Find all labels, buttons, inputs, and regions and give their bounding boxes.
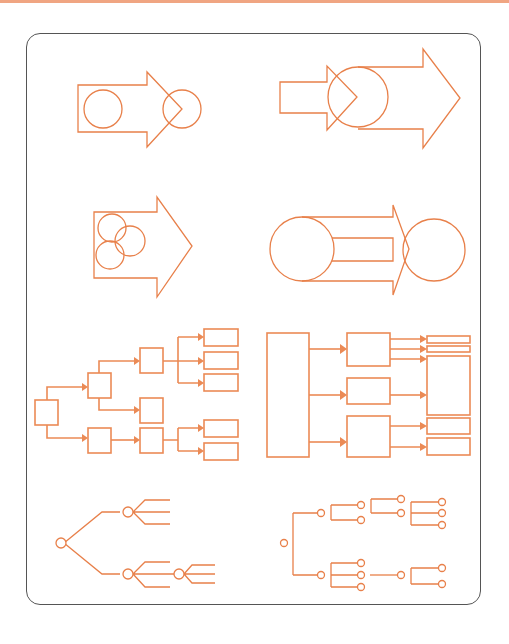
arrowhead-icon xyxy=(134,436,140,444)
connector-line xyxy=(331,563,358,587)
connector-line xyxy=(390,339,420,359)
connector-line xyxy=(133,500,170,524)
arrowhead-icon xyxy=(198,357,204,365)
tree-node xyxy=(123,507,133,517)
block-arrow-shape xyxy=(78,72,182,147)
diagram-circle-split-arrow-circle xyxy=(270,205,465,295)
diagram-arrow-circle-tip xyxy=(78,72,201,147)
flow-box-output xyxy=(427,418,470,434)
tree-box-leaf xyxy=(204,329,238,346)
flow-box-middle xyxy=(347,416,390,457)
flow-box-middle xyxy=(347,378,390,404)
diagram-canvas xyxy=(0,0,509,644)
arrowhead-icon xyxy=(82,434,88,442)
diagram-node-tree-right xyxy=(281,496,446,591)
circle-shape xyxy=(84,90,122,128)
flow-box-output xyxy=(427,336,470,343)
tree-node xyxy=(358,517,365,524)
tree-node xyxy=(439,522,446,529)
tree-node xyxy=(398,496,405,503)
connector-line xyxy=(99,398,134,410)
flow-box-output xyxy=(427,346,470,352)
tree-node xyxy=(56,538,66,548)
tree-node xyxy=(358,560,365,567)
arrowhead-icon xyxy=(340,390,347,400)
tree-node xyxy=(439,565,446,572)
tree-node xyxy=(439,499,446,506)
circle-shape xyxy=(115,226,145,256)
tree-node xyxy=(174,569,184,579)
arrowhead-icon xyxy=(134,406,140,414)
connector-line xyxy=(64,512,120,543)
arrowhead-icon xyxy=(198,424,204,432)
circle-shape xyxy=(328,67,388,127)
tree-box-leaf xyxy=(204,443,238,460)
tree-node xyxy=(318,510,325,517)
tree-box xyxy=(140,348,163,373)
connector-line xyxy=(47,387,82,400)
arrowhead-icon xyxy=(420,345,427,353)
tree-node xyxy=(358,572,365,579)
tree-box xyxy=(88,373,111,398)
block-arrow-shape xyxy=(94,197,192,297)
flow-box-middle xyxy=(347,333,390,366)
arrowhead-icon xyxy=(420,391,427,399)
tree-box xyxy=(140,428,163,453)
connector-line xyxy=(390,426,420,447)
flow-box-source xyxy=(267,333,309,457)
tree-box-leaf xyxy=(204,352,238,369)
small-block-arrow-shape xyxy=(280,66,357,130)
connector-line xyxy=(331,505,358,520)
connector-line xyxy=(184,565,215,583)
flow-box-output xyxy=(427,438,470,455)
tree-box-root xyxy=(35,400,58,425)
tree-box-leaf xyxy=(204,374,238,391)
big-block-arrow-shape xyxy=(358,49,460,148)
circle-shape xyxy=(96,241,124,269)
arrowhead-icon xyxy=(198,447,204,455)
tree-box-leaf xyxy=(204,420,238,437)
arrowhead-icon xyxy=(198,333,204,341)
connector-line xyxy=(163,428,198,451)
tree-node xyxy=(358,502,365,509)
arrowhead-icon xyxy=(420,335,427,343)
connector-line xyxy=(163,337,198,383)
tree-node xyxy=(318,572,325,579)
arrowhead-icon xyxy=(198,379,204,387)
tree-node xyxy=(358,584,365,591)
flow-box-output xyxy=(427,356,470,415)
arrowhead-icon xyxy=(420,355,427,363)
connector-line xyxy=(293,513,317,575)
tree-node xyxy=(439,510,446,517)
connector-line xyxy=(133,562,175,587)
tree-node xyxy=(398,572,405,579)
connector-line xyxy=(411,502,438,525)
arrowhead-icon xyxy=(420,422,427,430)
arrowhead-icon xyxy=(134,357,140,365)
circle-shape xyxy=(270,217,334,281)
tree-node xyxy=(123,569,133,579)
circle-shape xyxy=(403,219,465,281)
connector-line xyxy=(64,543,120,574)
split-arrow-gap xyxy=(332,238,393,261)
diagram-box-flow-right xyxy=(267,333,470,457)
diagram-box-tree-left xyxy=(35,329,238,460)
connector-line xyxy=(371,499,398,513)
connector-line xyxy=(47,425,82,438)
diagram-node-tree-left xyxy=(56,500,215,587)
arrowhead-icon xyxy=(420,443,427,451)
tree-box xyxy=(140,398,163,423)
diagram-arrow-three-circles xyxy=(94,197,192,297)
arrowhead-icon xyxy=(82,383,88,391)
tree-node xyxy=(281,540,288,547)
tree-node xyxy=(439,581,446,588)
tree-node xyxy=(398,510,405,517)
tree-box xyxy=(88,428,111,453)
connector-line xyxy=(411,568,438,584)
diagram-small-arrow-circle-big-arrow xyxy=(280,49,460,148)
arrowhead-icon xyxy=(340,344,347,354)
arrowhead-icon xyxy=(340,437,347,447)
connector-line xyxy=(99,361,134,373)
